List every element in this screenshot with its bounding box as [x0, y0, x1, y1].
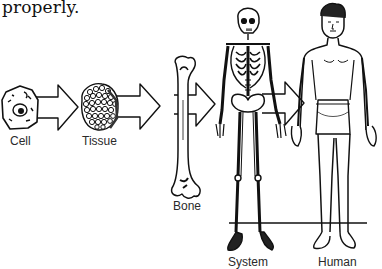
cell-icon — [2, 86, 38, 129]
arrow-cell-to-tissue — [36, 85, 78, 130]
arrow-tissue-to-bone — [116, 84, 160, 129]
stage-label-tissue: Tissue — [82, 134, 117, 148]
stage-label-system: System — [228, 255, 268, 269]
levels-of-organization-diagram — [0, 0, 382, 269]
stage-label-bone: Bone — [173, 199, 201, 213]
bone-icon — [172, 56, 200, 198]
skeleton-icon — [216, 8, 286, 250]
stage-label-human: Human — [318, 255, 357, 269]
stage-label-cell: Cell — [10, 134, 31, 148]
tissue-icon — [82, 84, 118, 130]
human-figure-icon — [291, 4, 376, 249]
